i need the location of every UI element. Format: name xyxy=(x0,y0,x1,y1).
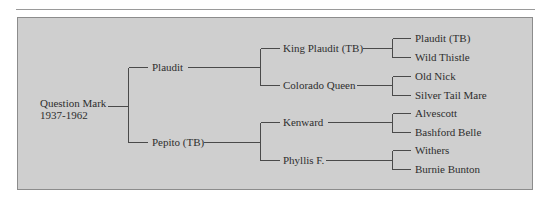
sire-label: Plaudit xyxy=(152,61,183,74)
great-grandparent-label: Plaudit (TB) xyxy=(415,32,470,45)
dam-label: Pepito (TB) xyxy=(152,136,204,149)
great-grandparent-label: Bashford Belle xyxy=(415,126,481,139)
great-grandparent-label: Alvescott xyxy=(415,107,457,120)
subject-name: Question Mark xyxy=(40,97,106,109)
sire-sire-label: King Plaudit (TB) xyxy=(283,42,363,55)
dam-sire-label: Kenward xyxy=(283,116,323,129)
great-grandparent-label: Silver Tail Mare xyxy=(415,89,487,102)
great-grandparent-label: Burnie Bunton xyxy=(415,163,480,176)
dam-dam-label: Phyllis F. xyxy=(283,154,324,167)
sire-dam-label: Colorado Queen xyxy=(283,79,355,92)
subject-node: Question Mark 1937-1962 xyxy=(40,97,106,121)
great-grandparent-label: Old Nick xyxy=(415,70,456,83)
great-grandparent-label: Wild Thistle xyxy=(415,51,470,64)
subject-years: 1937-1962 xyxy=(40,109,106,121)
top-rule xyxy=(16,9,535,10)
great-grandparent-label: Withers xyxy=(415,144,449,157)
